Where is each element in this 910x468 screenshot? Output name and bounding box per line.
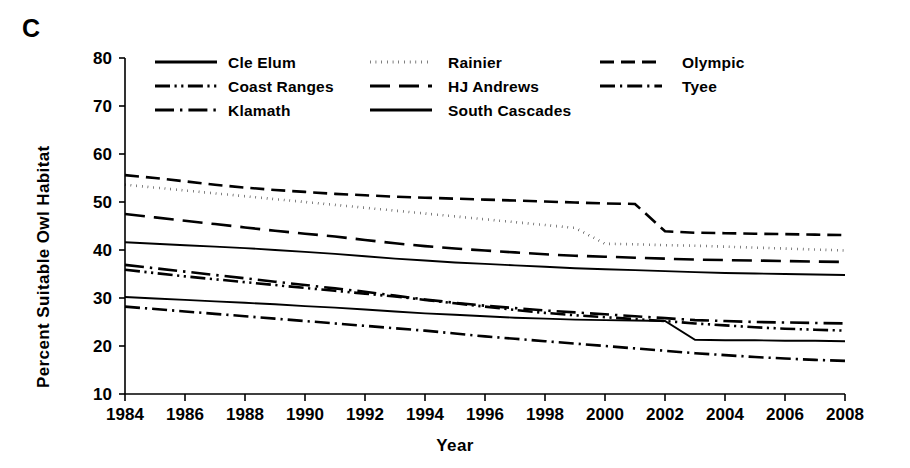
legend-label-south-cascades: South Cascades xyxy=(448,102,571,119)
y-tick-label: 30 xyxy=(93,289,112,308)
y-tick-label: 50 xyxy=(93,193,112,212)
data-series-group xyxy=(125,175,845,361)
legend-label-cle-elum: Cle Elum xyxy=(228,54,296,71)
series-line-hj-andrews xyxy=(125,214,845,262)
x-tick-label: 1988 xyxy=(226,405,264,424)
series-line-cle-elum xyxy=(125,297,845,341)
x-tick-label: 2004 xyxy=(706,405,744,424)
x-tick-label: 1992 xyxy=(346,405,384,424)
legend-label-olympic: Olympic xyxy=(682,54,745,71)
y-tick-label: 20 xyxy=(93,337,112,356)
x-tick-label: 2002 xyxy=(646,405,684,424)
series-line-rainier xyxy=(125,185,845,251)
x-tick-label: 2000 xyxy=(586,405,624,424)
legend-label-coast-ranges: Coast Ranges xyxy=(228,78,334,95)
series-line-south-cascades xyxy=(125,242,845,275)
legend-label-rainier: Rainier xyxy=(448,54,502,71)
x-tick-label: 2008 xyxy=(826,405,864,424)
chart-legend: Cle ElumCoast RangesKlamathRainierHJ And… xyxy=(155,54,745,119)
y-tick-label: 60 xyxy=(93,145,112,164)
x-tick-label: 1984 xyxy=(106,405,144,424)
x-tick-label: 2006 xyxy=(766,405,804,424)
x-tick-label: 1996 xyxy=(466,405,504,424)
figure-panel-c: C Percent Suitable Owl Habitat Year 1020… xyxy=(0,0,910,468)
x-tick-labels: 1984198619881990199219941996199820002002… xyxy=(106,405,864,424)
x-tick-label: 1986 xyxy=(166,405,204,424)
series-line-olympic xyxy=(125,175,845,235)
x-tick-label: 1990 xyxy=(286,405,324,424)
y-tick-label: 10 xyxy=(93,385,112,404)
y-tick-label: 70 xyxy=(93,97,112,116)
x-tick-label: 1998 xyxy=(526,405,564,424)
y-tick-label: 40 xyxy=(93,241,112,260)
line-chart-plot: 1020304050607080 19841986198819901992199… xyxy=(0,0,910,468)
legend-label-tyee: Tyee xyxy=(682,78,717,95)
y-tick-label: 80 xyxy=(93,49,112,68)
legend-label-hj-andrews: HJ Andrews xyxy=(448,78,539,95)
series-line-tyee xyxy=(125,307,845,361)
y-tick-labels: 1020304050607080 xyxy=(93,49,112,404)
legend-label-klamath: Klamath xyxy=(228,102,291,119)
x-tick-label: 1994 xyxy=(406,405,444,424)
